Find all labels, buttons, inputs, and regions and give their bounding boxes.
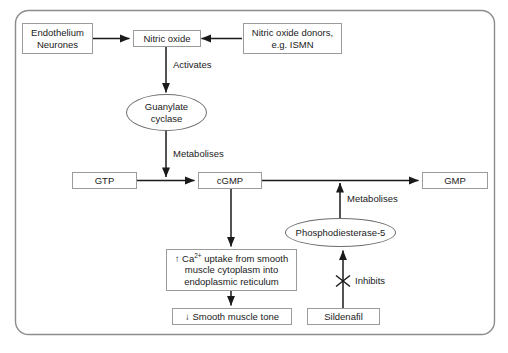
node-guanylate-cyclase-label: Guanylatecyclase bbox=[127, 101, 206, 124]
node-cgmp[interactable]: cGMP bbox=[198, 172, 262, 189]
node-smooth-muscle-tone[interactable]: ↓ Smooth muscle tone bbox=[172, 308, 292, 325]
node-gtp-label: GTP bbox=[73, 175, 136, 187]
node-calcium-uptake-label: ↑ Ca2+ uptake from smoothmuscle cytoplas… bbox=[167, 253, 296, 288]
calcium-charge-superscript: 2+ bbox=[194, 251, 201, 258]
node-calcium-uptake[interactable]: ↑ Ca2+ uptake from smoothmuscle cytoplas… bbox=[166, 249, 297, 291]
pathway-diagram: EndotheliumNeurones Nitric oxide Nitric … bbox=[0, 0, 508, 353]
node-nitric-oxide[interactable]: Nitric oxide bbox=[133, 30, 201, 47]
node-endothelium-neurones-label: EndotheliumNeurones bbox=[23, 27, 92, 50]
node-cgmp-label: cGMP bbox=[199, 175, 261, 187]
node-gtp[interactable]: GTP bbox=[72, 172, 137, 189]
node-sildenafil-label: Sildenafil bbox=[308, 311, 379, 323]
node-sildenafil[interactable]: Sildenafil bbox=[307, 308, 380, 325]
node-smooth-muscle-tone-label: ↓ Smooth muscle tone bbox=[173, 311, 291, 323]
edge-label-metabolises-cyclase: Metabolises bbox=[173, 148, 224, 159]
node-endothelium-neurones[interactable]: EndotheliumNeurones bbox=[22, 23, 93, 54]
edge-label-inhibits: Inhibits bbox=[355, 275, 385, 286]
node-nitric-oxide-donors-label: Nitric oxide donors,e.g. ISMN bbox=[244, 27, 341, 50]
node-phosphodiesterase-5[interactable]: Phosphodiesterase-5 bbox=[285, 218, 396, 247]
edge-label-activates: Activates bbox=[173, 59, 212, 70]
node-phosphodiesterase-5-label: Phosphodiesterase-5 bbox=[286, 227, 395, 239]
node-guanylate-cyclase[interactable]: Guanylatecyclase bbox=[126, 94, 207, 131]
node-gmp[interactable]: GMP bbox=[422, 172, 488, 189]
node-nitric-oxide-label: Nitric oxide bbox=[134, 33, 200, 45]
node-gmp-label: GMP bbox=[423, 175, 487, 187]
node-nitric-oxide-donors[interactable]: Nitric oxide donors,e.g. ISMN bbox=[243, 23, 342, 54]
edge-label-metabolises-pde5: Metabolises bbox=[347, 193, 398, 204]
